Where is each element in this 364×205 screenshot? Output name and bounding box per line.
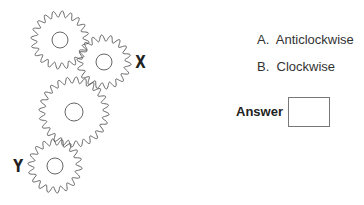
hub-icon [65,103,83,121]
option-a[interactable]: A. Anticlockwise [257,32,354,47]
gear-label-x: X [135,52,145,72]
option-b-letter: B. [257,59,269,74]
option-b-text: Clockwise [277,59,336,74]
hub-icon [96,54,112,70]
answer-box[interactable] [288,97,330,127]
option-b[interactable]: B. Clockwise [257,59,335,74]
gear-label-y: Y [13,156,23,176]
hub-icon [52,32,68,48]
option-a-letter: A. [257,32,269,47]
gear-x-icon [77,35,131,89]
answer-label: Answer [236,104,283,119]
gear-y-icon [28,139,82,193]
hub-icon [47,158,63,174]
gear-1-icon [31,11,89,69]
option-a-text: Anticlockwise [276,32,354,47]
